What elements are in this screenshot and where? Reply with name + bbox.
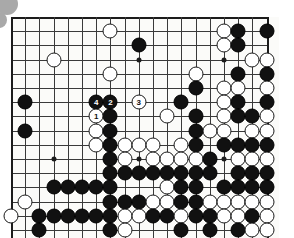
- black-stone: [60, 180, 75, 195]
- black-stone: [103, 208, 118, 223]
- star-point: [222, 157, 227, 162]
- white-stone: [160, 109, 175, 124]
- star-point: [51, 157, 56, 162]
- board-vertical-line: [82, 17, 83, 238]
- black-stone: [60, 208, 75, 223]
- white-stone: [117, 208, 132, 223]
- white-stone: [245, 223, 260, 238]
- white-stone: [89, 123, 104, 138]
- black-stone: [231, 24, 246, 39]
- black-stone: [245, 109, 260, 124]
- numbered-move-stone-3: 3: [131, 95, 146, 110]
- black-stone: [188, 81, 203, 96]
- black-stone: [103, 223, 118, 238]
- black-stone: [103, 194, 118, 209]
- black-stone: [146, 166, 161, 181]
- board-vertical-line: [11, 17, 13, 238]
- white-stone: [217, 24, 232, 39]
- black-stone: [231, 180, 246, 195]
- white-stone: [231, 208, 246, 223]
- white-stone: [174, 208, 189, 223]
- black-stone: [231, 223, 246, 238]
- white-stone: [146, 152, 161, 167]
- white-stone: [131, 137, 146, 152]
- black-stone: [103, 137, 118, 152]
- white-stone: [18, 194, 33, 209]
- move-number-label: 2: [104, 96, 117, 109]
- black-stone: [188, 194, 203, 209]
- black-stone: [46, 180, 61, 195]
- black-stone: [245, 137, 260, 152]
- black-stone: [231, 166, 246, 181]
- white-stone: [259, 194, 274, 209]
- black-stone: [231, 95, 246, 110]
- white-stone: [117, 137, 132, 152]
- black-stone: [245, 180, 260, 195]
- black-stone: [146, 208, 161, 223]
- white-stone: [259, 81, 274, 96]
- white-stone: [103, 24, 118, 39]
- go-board[interactable]: 4231: [11, 17, 279, 238]
- star-point: [222, 57, 227, 62]
- black-stone: [75, 180, 90, 195]
- move-number-label: 4: [90, 96, 103, 109]
- white-stone: [217, 194, 232, 209]
- white-stone: [217, 109, 232, 124]
- black-stone: [188, 208, 203, 223]
- white-stone: [160, 180, 175, 195]
- numbered-move-stone-1: 1: [89, 109, 104, 124]
- white-stone: [103, 66, 118, 81]
- black-stone: [231, 137, 246, 152]
- black-stone: [188, 123, 203, 138]
- black-stone: [160, 166, 175, 181]
- white-stone: [146, 137, 161, 152]
- black-stone: [103, 109, 118, 124]
- black-stone: [103, 166, 118, 181]
- board-vertical-line: [54, 17, 55, 238]
- white-stone: [174, 152, 189, 167]
- black-stone: [217, 180, 232, 195]
- white-stone: [217, 208, 232, 223]
- white-stone: [259, 223, 274, 238]
- black-stone: [245, 208, 260, 223]
- white-stone: [160, 152, 175, 167]
- black-stone: [202, 152, 217, 167]
- black-stone: [46, 208, 61, 223]
- white-stone: [131, 208, 146, 223]
- black-stone: [174, 180, 189, 195]
- black-stone: [217, 137, 232, 152]
- white-stone: [245, 123, 260, 138]
- black-stone: [103, 123, 118, 138]
- diagram-page: 4231: [0, 0, 294, 238]
- black-stone: [259, 137, 274, 152]
- numbered-move-stone-2: 2: [103, 95, 118, 110]
- white-stone: [217, 81, 232, 96]
- white-stone: [245, 194, 260, 209]
- black-stone: [89, 208, 104, 223]
- white-stone: [259, 109, 274, 124]
- star-point: [136, 57, 141, 62]
- black-stone: [160, 208, 175, 223]
- black-stone: [103, 180, 118, 195]
- move-number-label: 1: [90, 110, 103, 123]
- board-vertical-line: [68, 17, 69, 238]
- black-stone: [174, 194, 189, 209]
- black-stone: [202, 223, 217, 238]
- black-stone: [117, 194, 132, 209]
- white-stone: [245, 152, 260, 167]
- black-stone: [231, 66, 246, 81]
- black-stone: [103, 152, 118, 167]
- black-stone: [32, 208, 47, 223]
- black-stone: [259, 180, 274, 195]
- white-stone: [231, 152, 246, 167]
- white-stone: [259, 52, 274, 67]
- black-stone: [231, 109, 246, 124]
- black-stone: [75, 208, 90, 223]
- black-stone: [131, 166, 146, 181]
- black-stone: [131, 194, 146, 209]
- white-stone: [174, 137, 189, 152]
- black-stone: [188, 109, 203, 124]
- black-stone: [259, 24, 274, 39]
- white-stone: [202, 194, 217, 209]
- board-vertical-line: [39, 17, 40, 238]
